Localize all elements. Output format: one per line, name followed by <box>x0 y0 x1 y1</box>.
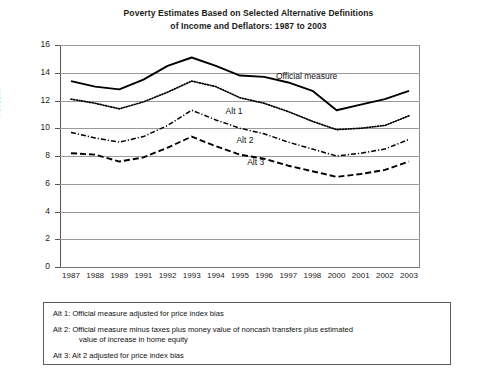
series-label-alt-2: Alt 2 <box>236 135 253 145</box>
y-axis-label-14: 14 <box>24 67 50 77</box>
footnote-2: Alt 2: Official measure minus taxes plus… <box>53 325 441 346</box>
y-axis-label-6: 6 <box>24 178 50 188</box>
chart-title: Poverty Estimates Based on Selected Alte… <box>0 7 497 32</box>
y-axis-label-16: 16 <box>24 39 50 49</box>
y-axis-label-4: 4 <box>24 206 50 216</box>
y-tick-0 <box>55 267 60 268</box>
y-axis-label-2: 2 <box>24 233 50 243</box>
footnote-2-continuation: value of increase in home equity <box>53 335 441 346</box>
y-axis-label-10: 10 <box>24 122 50 132</box>
chart-title-line-1: Poverty Estimates Based on Selected Alte… <box>124 8 374 18</box>
footnote-1: Alt 1: Official measure adjusted for pri… <box>53 309 441 320</box>
plot-area: 0246810121416 19871988198919911992199319… <box>60 45 420 267</box>
footnote-box: Alt 1: Official measure adjusted for pri… <box>43 302 451 365</box>
y-axis-title: Percent <box>0 89 2 118</box>
y-axis-label-12: 12 <box>24 95 50 105</box>
series-label-official-measure: Official measure <box>276 71 337 81</box>
series-line-alt-2 <box>71 110 409 156</box>
y-axis-label-0: 0 <box>24 261 50 271</box>
series-lines <box>60 45 420 267</box>
x-axis-label-2003: 2003 <box>394 271 424 280</box>
series-label-alt-3: Alt 3 <box>247 157 264 167</box>
chart-title-line-2: of Income and Deflators: 1987 to 2003 <box>0 20 497 33</box>
y-axis-label-8: 8 <box>24 150 50 160</box>
chart-page: Poverty Estimates Based on Selected Alte… <box>0 0 497 373</box>
series-label-alt-1: Alt 1 <box>226 106 243 116</box>
footnote-3: Alt 3: Alt 2 adjusted for price index bi… <box>53 351 441 362</box>
gridline-0 <box>60 267 420 268</box>
series-line-official-measure <box>71 57 409 110</box>
